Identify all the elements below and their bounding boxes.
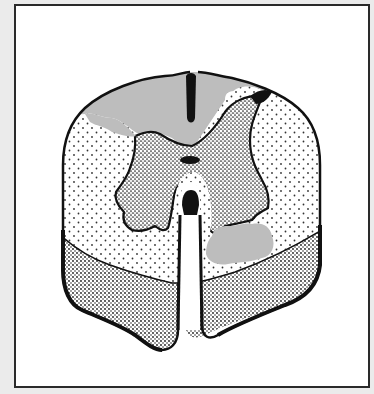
posterior-median-septum bbox=[186, 73, 196, 123]
spinal-cord-illustration bbox=[0, 0, 374, 394]
central-canal bbox=[180, 156, 200, 164]
ventral-septum-dark bbox=[182, 190, 199, 215]
